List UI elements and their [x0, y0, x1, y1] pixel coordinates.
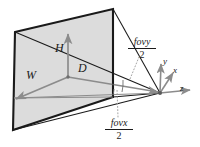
fovx-over-two-label: fovx 2 [105, 118, 133, 141]
fovx-leader-line [117, 89, 118, 117]
fovy-over-two-label: fovy 2 [128, 37, 156, 60]
distance-label: D [78, 62, 87, 74]
height-label: H [55, 42, 64, 54]
z-axis-label: z [180, 84, 184, 93]
plane-center-dot [66, 75, 69, 78]
fov-diagram: H W D y x z fovy 2 fovx 2 [0, 0, 200, 147]
x-axis-line [160, 73, 173, 93]
x-axis-label: x [173, 66, 177, 75]
y-axis-label: y [163, 57, 167, 66]
fovy-numerator: fovy [128, 37, 156, 49]
fovx-numerator: fovx [105, 118, 133, 130]
fovy-denominator: 2 [128, 49, 156, 60]
y-axis-line [160, 64, 161, 93]
z-axis-line [160, 90, 190, 93]
fovy-leader-line [130, 57, 139, 79]
fovx-denominator: 2 [105, 130, 133, 141]
width-label: W [26, 69, 36, 81]
origin-dot [158, 91, 162, 95]
